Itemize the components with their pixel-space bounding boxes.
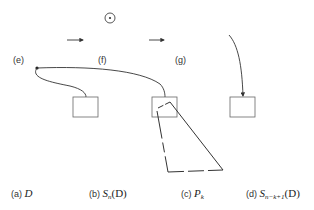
curve-to-box-d bbox=[229, 35, 243, 96]
caption-d: (d) Sn−k+1(D) bbox=[246, 187, 300, 201]
panel-label-f: (f) bbox=[98, 55, 107, 65]
caption-b-suffix: (D) bbox=[112, 187, 127, 199]
caption-a: (a) D bbox=[11, 187, 32, 199]
box-c bbox=[152, 97, 177, 117]
box-b bbox=[73, 97, 98, 117]
panel-label-e: (e) bbox=[13, 55, 24, 65]
box-d bbox=[230, 97, 255, 117]
circled-dot-icon bbox=[105, 13, 115, 23]
diagram-canvas bbox=[0, 0, 314, 210]
caption-a-prefix: (a) bbox=[11, 189, 22, 199]
curve-to-box-c bbox=[37, 68, 165, 97]
caption-c: (c) Pk bbox=[181, 187, 204, 201]
caption-b-prefix: (b) bbox=[89, 189, 100, 199]
projection-trapezoid bbox=[157, 102, 223, 172]
panel-label-g: (g) bbox=[175, 55, 186, 65]
caption-c-sub: k bbox=[201, 193, 204, 201]
caption-b: (b) Sn(D) bbox=[89, 187, 127, 201]
caption-a-math: D bbox=[25, 187, 33, 199]
caption-c-math: P bbox=[194, 187, 201, 199]
caption-d-suffix: (D) bbox=[285, 187, 300, 199]
curve-to-box-b bbox=[36, 68, 86, 97]
caption-d-prefix: (d) bbox=[246, 189, 257, 199]
caption-d-sub: n−k+1 bbox=[265, 193, 285, 201]
caption-c-prefix: (c) bbox=[181, 189, 192, 199]
